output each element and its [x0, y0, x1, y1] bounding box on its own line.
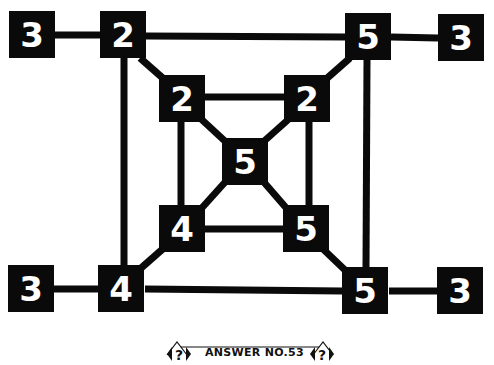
node-outer-top-right: 5	[345, 13, 391, 60]
node-outer-right-top: 3	[438, 14, 484, 61]
node-outer-bottom-right: 5	[342, 267, 388, 314]
svg-text:?: ?	[318, 347, 326, 363]
node-inner-top-left: 2	[159, 75, 205, 122]
node-outer-left-top: 3	[9, 11, 55, 58]
node-outer-left-bottom: 3	[8, 265, 54, 312]
node-inner-bottom-right: 5	[283, 205, 329, 252]
node-outer-right-bottom: 3	[437, 267, 483, 314]
answer-label: ANSWER NO.53	[205, 346, 304, 359]
node-inner-bottom-left: 4	[159, 205, 205, 252]
number-puzzle-diagram: 3 2 5 3 2 2 5 4 5 3 4 5 3	[0, 0, 494, 330]
question-mark-icon: ?	[309, 344, 335, 364]
node-outer-top-left: 2	[100, 11, 146, 58]
node-inner-top-right: 2	[284, 75, 330, 122]
node-center: 5	[222, 138, 268, 185]
question-mark-icon: ?	[166, 344, 192, 364]
node-outer-bottom-left: 4	[98, 265, 144, 312]
answer-footer: ? ANSWER NO.53 ?	[165, 338, 335, 362]
svg-text:?: ?	[175, 347, 183, 363]
